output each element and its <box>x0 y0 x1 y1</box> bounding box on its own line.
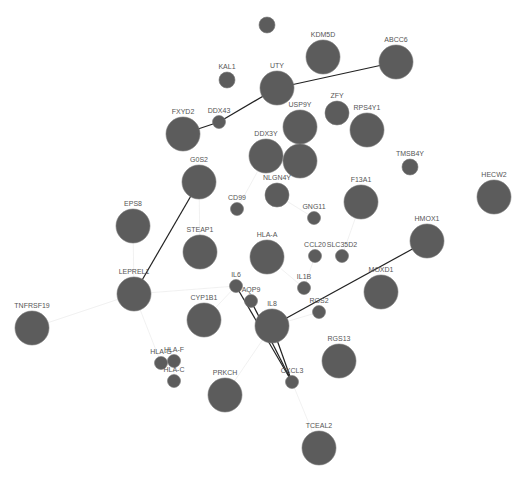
node-label-hla-f: HLA-F <box>164 346 184 353</box>
node-cxcl3[interactable] <box>286 376 299 389</box>
node-label-tmsb4y: TMSB4Y <box>396 150 424 157</box>
node-fxyd2[interactable] <box>166 117 200 151</box>
node-cd99[interactable] <box>231 203 244 216</box>
node-label-gng11: GNG11 <box>302 203 325 210</box>
node-rgs13[interactable] <box>322 344 356 378</box>
node-label-prkch: PRKCH <box>213 369 238 376</box>
node-eps8[interactable] <box>116 209 150 243</box>
node-leprel1[interactable] <box>117 277 151 311</box>
node-kal1[interactable] <box>219 72 235 88</box>
network-graph: KDM5DABCC6KAL1UTYFXYD2DDX43USP9YZFYRPS4Y… <box>0 0 525 482</box>
edge-IL8-HMOX1 <box>272 241 427 326</box>
node-label-leprel1: LEPREL1 <box>119 268 150 275</box>
node-label-slc35d2: SLC35D2 <box>327 241 357 248</box>
node-label-usp9y: USP9Y <box>289 101 312 108</box>
node-f13a1[interactable] <box>344 185 378 219</box>
node-label-hecw2: HECW2 <box>481 171 506 178</box>
node-abcc6[interactable] <box>379 45 413 79</box>
node-label-rgs2: RGS2 <box>309 297 328 304</box>
node-ddx43[interactable] <box>213 116 226 129</box>
node-label-abcc6: ABCC6 <box>384 36 407 43</box>
node-label-g0s2: G0S2 <box>190 156 208 163</box>
node-hla-c[interactable] <box>168 375 181 388</box>
node-prkch[interactable] <box>208 378 242 412</box>
node-zfy[interactable] <box>325 101 349 125</box>
node-ccl20[interactable] <box>309 250 322 263</box>
node-il1b[interactable] <box>298 282 311 295</box>
node-label-fxyd2: FXYD2 <box>172 108 195 115</box>
node-aqp9[interactable] <box>245 295 258 308</box>
node-label-hla-a: HLA-A <box>257 231 278 238</box>
node-hecw2[interactable] <box>477 180 511 214</box>
node-steap1[interactable] <box>183 235 217 269</box>
node-label-aqp9: AQP9 <box>242 286 261 294</box>
node-label-ddx43: DDX43 <box>208 107 231 114</box>
node-usp9y[interactable] <box>283 110 317 144</box>
nodes <box>15 17 511 465</box>
node-ddx3y[interactable] <box>249 139 283 173</box>
node-cyp1b1[interactable] <box>187 303 221 337</box>
node-il8[interactable] <box>255 309 289 343</box>
node-label-hla-c: HLA-C <box>163 366 184 373</box>
node-label-tceal2: TCEAL2 <box>306 422 333 429</box>
node-hmox1[interactable] <box>410 224 444 258</box>
node-rps4y1[interactable] <box>350 113 384 147</box>
node-label-uty: UTY <box>270 62 284 69</box>
node-tnfrsf19[interactable] <box>15 311 49 345</box>
node-gng11[interactable] <box>308 212 321 225</box>
node-label-eps8: EPS8 <box>124 200 142 207</box>
node-label-rps4y1: RPS4Y1 <box>354 104 381 111</box>
node-label-ddx3y: DDX3Y <box>254 130 278 137</box>
node-rgs2[interactable] <box>313 306 326 319</box>
node-slc35d2[interactable] <box>336 250 349 263</box>
node-tmsb4y[interactable] <box>402 159 418 175</box>
node-label-ccl20: CCL20 <box>304 241 326 248</box>
node-label-tnfrsf19: TNFRSF19 <box>14 302 50 309</box>
node-uty[interactable] <box>260 71 294 105</box>
node-moxd1[interactable] <box>364 275 398 309</box>
node-label-kdm5d: KDM5D <box>311 31 336 38</box>
node-label-cxcl3: CXCL3 <box>281 367 304 374</box>
node-label-steap1: STEAP1 <box>187 226 214 233</box>
node-nlgn4y[interactable] <box>265 183 289 207</box>
node-label-il8: IL8 <box>267 300 277 307</box>
node-label-rgs13: RGS13 <box>328 335 351 342</box>
node-kdm5d[interactable] <box>306 40 340 74</box>
node-tceal2[interactable] <box>302 431 336 465</box>
node-label-hmox1: HMOX1 <box>415 215 440 222</box>
node-label-il1b: IL1B <box>297 273 312 280</box>
node-label-cd99: CD99 <box>228 194 246 201</box>
node-label-il6: IL6 <box>231 271 241 278</box>
node-label-nlgn4y: NLGN4Y <box>263 174 291 181</box>
node-n0[interactable] <box>259 17 275 33</box>
node-n11[interactable] <box>283 144 317 178</box>
node-g0s2[interactable] <box>182 165 216 199</box>
node-il6[interactable] <box>230 280 243 293</box>
node-label-moxd1: MOXD1 <box>369 266 394 273</box>
node-hla-a[interactable] <box>250 240 284 274</box>
node-label-zfy: ZFY <box>330 92 344 99</box>
node-label-kal1: KAL1 <box>218 63 235 70</box>
node-label-cyp1b1: CYP1B1 <box>191 294 218 301</box>
node-label-f13a1: F13A1 <box>351 176 372 183</box>
